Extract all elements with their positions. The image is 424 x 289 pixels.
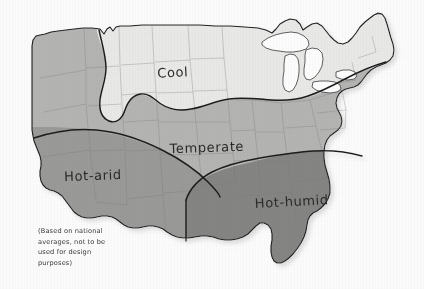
caption-line-1: (Based on national (38, 227, 103, 235)
caption-line-3: used for design (38, 248, 91, 256)
zone-label-cool: Cool (157, 64, 189, 81)
caption-line-2: averages, not to be (38, 238, 105, 246)
us-climate-zone-map: Cool Temperate Hot-arid Hot-humid (Based… (0, 0, 424, 289)
climate-map-page: Cool Temperate Hot-arid Hot-humid (Based… (0, 0, 424, 289)
zone-fill-hot-humid (186, 151, 424, 289)
disclaimer-note: (Based on national averages, not to be u… (38, 227, 105, 267)
zone-label-temperate: Temperate (168, 139, 244, 157)
zone-label-hot-arid: Hot-arid (64, 167, 122, 184)
caption-line-4: purposes) (38, 259, 72, 267)
